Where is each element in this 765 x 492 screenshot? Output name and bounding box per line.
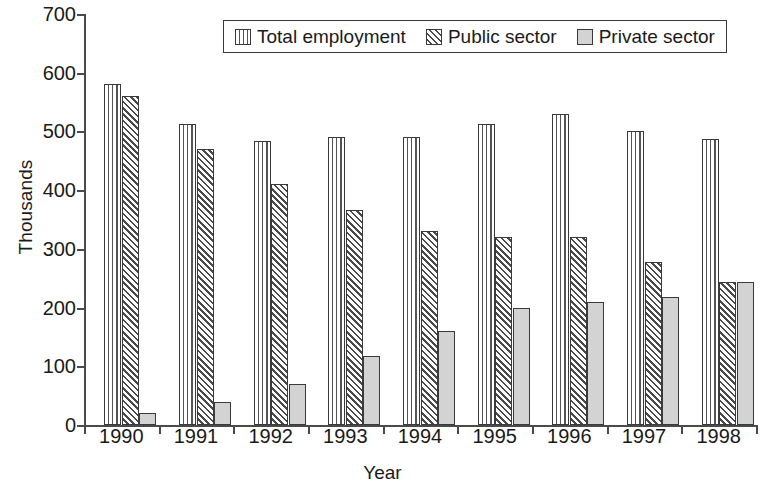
- x-tick-label-1990: 1990: [81, 425, 161, 448]
- y-tick-mark: [77, 308, 85, 310]
- bar-public-sector-1997[interactable]: [645, 262, 662, 425]
- bar-total-employment-1997[interactable]: [627, 131, 644, 425]
- y-tick-mark: [77, 249, 85, 251]
- bar-public-sector-1990[interactable]: [122, 96, 139, 425]
- y-tick-mark: [77, 73, 85, 75]
- bar-private-sector-1998[interactable]: [737, 282, 754, 425]
- bar-private-sector-1995[interactable]: [513, 308, 530, 425]
- bar-total-employment-1996[interactable]: [552, 114, 569, 425]
- y-tick-mark: [77, 190, 85, 192]
- bar-private-sector-1996[interactable]: [587, 302, 604, 425]
- bar-public-sector-1992[interactable]: [271, 184, 288, 425]
- legend-swatch-total-employment-icon: [235, 29, 251, 45]
- y-tick-label: 100: [24, 356, 76, 376]
- bar-private-sector-1994[interactable]: [438, 331, 455, 425]
- legend-swatch-public-sector-icon: [426, 29, 442, 45]
- bar-total-employment-1991[interactable]: [179, 124, 196, 425]
- x-tick-label-1992: 1992: [231, 425, 311, 448]
- y-axis-tick-labels: 0100200300400500600700: [20, 0, 76, 492]
- plot-area: [84, 14, 756, 425]
- y-tick-mark: [77, 131, 85, 133]
- x-tick-label-1997: 1997: [604, 425, 684, 448]
- legend-item-private-sector[interactable]: Private sector: [577, 26, 715, 48]
- bar-public-sector-1993[interactable]: [346, 210, 363, 425]
- bar-total-employment-1990[interactable]: [104, 84, 121, 425]
- x-tick-label-1991: 1991: [156, 425, 236, 448]
- y-tick-label: 500: [24, 121, 76, 141]
- y-tick-mark: [77, 14, 85, 16]
- legend-label-private-sector: Private sector: [599, 26, 715, 48]
- bar-public-sector-1998[interactable]: [719, 282, 736, 425]
- x-tick-label-1998: 1998: [679, 425, 759, 448]
- y-axis-line: [84, 14, 86, 425]
- x-tick-label-1994: 1994: [380, 425, 460, 448]
- y-tick-label: 400: [24, 180, 76, 200]
- y-tick-mark: [77, 366, 85, 368]
- chart-legend: Total employment Public sector Private s…: [223, 20, 727, 53]
- bar-total-employment-1992[interactable]: [254, 141, 271, 425]
- legend-item-total-employment[interactable]: Total employment: [235, 26, 406, 48]
- bar-private-sector-1993[interactable]: [363, 356, 380, 425]
- x-tick-label-1993: 1993: [305, 425, 385, 448]
- x-axis-title: Year: [0, 462, 765, 484]
- legend-item-public-sector[interactable]: Public sector: [426, 26, 557, 48]
- bar-total-employment-1998[interactable]: [702, 139, 719, 425]
- bar-total-employment-1995[interactable]: [478, 124, 495, 425]
- y-tick-label: 200: [24, 298, 76, 318]
- legend-label-total-employment: Total employment: [257, 26, 406, 48]
- y-tick-label: 600: [24, 63, 76, 83]
- legend-swatch-private-sector-icon: [577, 29, 593, 45]
- bar-public-sector-1996[interactable]: [570, 237, 587, 425]
- x-tick-label-1995: 1995: [455, 425, 535, 448]
- bar-public-sector-1991[interactable]: [197, 149, 214, 425]
- y-tick-label: 300: [24, 239, 76, 259]
- bar-private-sector-1997[interactable]: [662, 297, 679, 425]
- bar-chart: Thousands 0100200300400500600700 1990199…: [0, 0, 765, 492]
- bar-total-employment-1994[interactable]: [403, 137, 420, 425]
- legend-label-public-sector: Public sector: [448, 26, 557, 48]
- bar-private-sector-1992[interactable]: [289, 384, 306, 425]
- bar-public-sector-1994[interactable]: [421, 231, 438, 425]
- bar-private-sector-1991[interactable]: [214, 402, 231, 425]
- y-tick-label: 0: [24, 415, 76, 435]
- bar-total-employment-1993[interactable]: [328, 137, 345, 425]
- y-tick-label: 700: [24, 4, 76, 24]
- bar-public-sector-1995[interactable]: [495, 237, 512, 425]
- x-tick-label-1996: 1996: [529, 425, 609, 448]
- bar-private-sector-1990[interactable]: [139, 413, 156, 425]
